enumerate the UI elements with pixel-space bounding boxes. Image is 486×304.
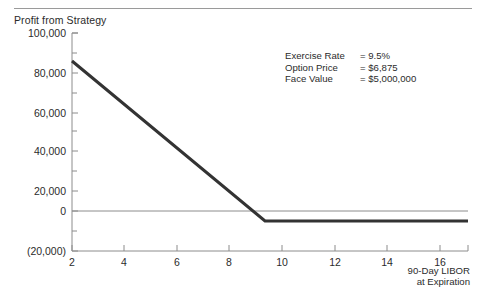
annotation-row-option-price: Option Price = $6,875	[285, 62, 416, 74]
annotation-row-exercise-rate: Exercise Rate = 9.5%	[285, 50, 416, 62]
annotation-value-option-price: = $6,875	[360, 62, 398, 74]
annotation-label-option-price: Option Price	[285, 62, 360, 74]
y-axis-minor-ticks	[72, 53, 77, 231]
annotation-value-exercise-rate: = 9.5%	[360, 50, 390, 62]
x-tick-label-8: 8	[226, 256, 232, 268]
x-axis-major-ticks	[72, 245, 440, 251]
x-axis-title-line2: at Expiration	[366, 276, 470, 287]
annotation-box: Exercise Rate = 9.5% Option Price = $6,8…	[285, 50, 416, 85]
chart-page: Profit from Strategy 100,000 80,	[0, 0, 486, 304]
x-tick-label-2: 2	[69, 256, 75, 268]
annotation-row-face-value: Face Value = $5,000,000	[285, 73, 416, 85]
y-tick-label-100000: 100,000	[28, 27, 66, 39]
y-tick-label-neg20000: (20,000)	[27, 245, 66, 257]
y-tick-label-80000: 80,000	[34, 67, 66, 79]
x-axis-title: 90-Day LIBOR at Expiration	[366, 265, 470, 288]
x-axis-title-line1: 90-Day LIBOR	[366, 265, 470, 276]
annotation-label-exercise-rate: Exercise Rate	[285, 50, 360, 62]
y-tick-label-40000: 40,000	[34, 145, 66, 157]
y-tick-label-60000: 60,000	[34, 107, 66, 119]
chart-plot-area: 100,000 80,000 60,000 40,000 20,000 0 (2…	[0, 0, 486, 304]
x-tick-label-10: 10	[276, 256, 288, 268]
annotation-label-face-value: Face Value	[285, 73, 360, 85]
y-tick-label-0: 0	[60, 205, 66, 217]
x-tick-label-6: 6	[174, 256, 180, 268]
annotation-value-face-value: = $5,000,000	[360, 73, 416, 85]
y-tick-label-20000: 20,000	[34, 185, 66, 197]
x-tick-label-12: 12	[329, 256, 341, 268]
profit-series-line	[72, 61, 468, 221]
x-tick-label-4: 4	[121, 256, 127, 268]
